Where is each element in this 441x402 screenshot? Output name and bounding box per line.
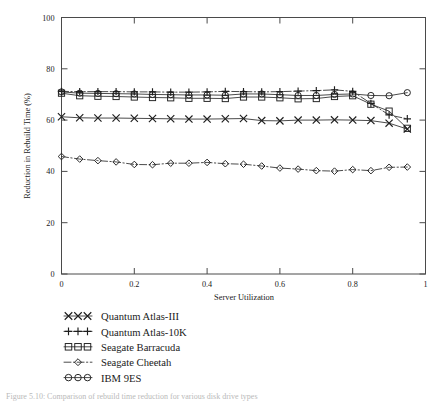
plus-marker <box>74 328 82 336</box>
legend-label: Quantum Atlas-III <box>101 311 179 322</box>
series-seagate-barracuda <box>58 90 410 131</box>
legend-entry-quantum-atlas-10k[interactable]: Quantum Atlas-10K <box>64 327 187 338</box>
chart-legend: Quantum Atlas-IIIQuantum Atlas-10KSeagat… <box>64 311 187 384</box>
legend-entry-ibm-9es[interactable]: IBM 9ES <box>64 373 141 384</box>
figure-container: 020406080100 00.20.40.60.81 Reduction in… <box>0 0 441 402</box>
y-tick-label: 60 <box>46 116 54 125</box>
plus-marker <box>65 328 73 336</box>
series-quantum-atlas-10k <box>58 86 411 122</box>
x-tick-label: 0 <box>59 280 63 289</box>
y-axis-ticks <box>62 18 426 275</box>
series-markers <box>58 113 411 133</box>
series-seagate-cheetah <box>58 153 410 174</box>
y-tick-label: 20 <box>46 219 54 228</box>
y-tick-label: 100 <box>42 14 54 23</box>
y-axis-tick-labels: 020406080100 <box>42 14 54 280</box>
data-series-layer <box>58 86 411 174</box>
x-axis-ticks <box>62 18 426 275</box>
legend-entry-seagate-barracuda[interactable]: Seagate Barracuda <box>64 342 180 353</box>
y-tick-label: 80 <box>46 65 54 74</box>
y-tick-label: 40 <box>46 167 54 176</box>
x-tick-label: 1 <box>423 280 427 289</box>
series-quantum-atlas-iii <box>58 113 411 133</box>
plus-marker <box>385 111 392 118</box>
caption-line: Figure 5.10: Comparison of rebuild time … <box>6 392 258 401</box>
x-tick-label: 0.8 <box>348 280 358 289</box>
plus-marker <box>84 328 92 336</box>
plot-frame <box>62 18 426 275</box>
x-tick-label: 0.2 <box>129 280 139 289</box>
legend-label: IBM 9ES <box>101 373 141 384</box>
x-tick-label: 0.6 <box>275 280 285 289</box>
x-tick-label: 0.4 <box>202 280 212 289</box>
chart-canvas: 020406080100 00.20.40.60.81 Reduction in… <box>0 0 441 402</box>
plus-marker <box>404 115 411 122</box>
x-axis-title: Server Utilization <box>214 293 275 302</box>
legend-label: Seagate Cheetah <box>101 357 172 368</box>
y-tick-label: 0 <box>50 270 54 279</box>
y-axis-title: Reduction in Rebuild Time (%) <box>23 93 32 199</box>
legend-label: Seagate Barracuda <box>101 342 180 353</box>
series-ibm-9es <box>58 89 410 99</box>
x-axis-tick-labels: 00.20.40.60.81 <box>59 280 427 289</box>
figure-caption: Figure 5.10: Comparison of rebuild time … <box>6 392 258 401</box>
legend-label: Quantum Atlas-10K <box>101 327 187 338</box>
legend-entry-quantum-atlas-iii[interactable]: Quantum Atlas-III <box>64 311 179 322</box>
legend-entry-seagate-cheetah[interactable]: Seagate Cheetah <box>64 357 172 368</box>
